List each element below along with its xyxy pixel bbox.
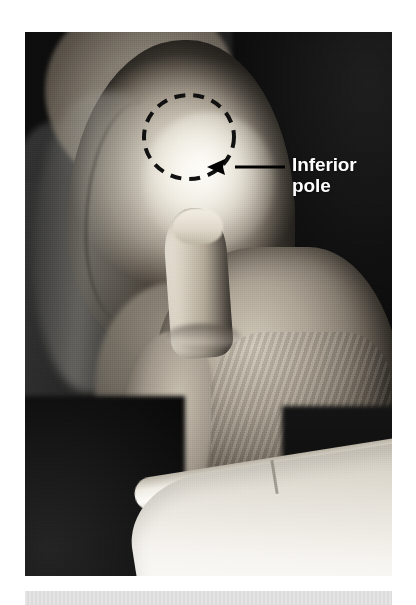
figure-page: Inferior pole	[0, 0, 416, 605]
index-finger-tip	[173, 208, 223, 244]
clinical-photograph	[25, 32, 392, 576]
caption-band	[25, 591, 392, 605]
